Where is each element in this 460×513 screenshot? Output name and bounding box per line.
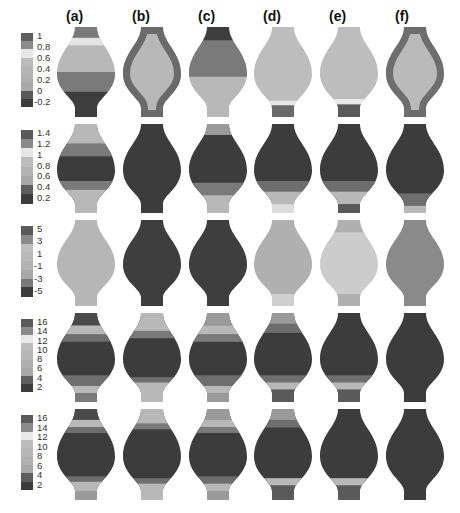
colorbar-tick-label: 0.2 — [37, 193, 50, 203]
contour-shape — [317, 409, 381, 500]
contour-shape — [317, 27, 381, 117]
colorbar-tick-label: 5 — [37, 224, 42, 234]
colorbar — [21, 226, 33, 296]
contour-shape — [317, 313, 381, 402]
contour-shape — [54, 409, 118, 500]
contour-shape — [186, 27, 250, 117]
colorbar-tick-label: 0.8 — [37, 42, 50, 52]
colorbar — [21, 33, 33, 107]
contour-shape — [383, 27, 447, 117]
colorbar-tick-label: 0 — [37, 86, 42, 96]
colorbar-tick-label: 2 — [37, 382, 42, 392]
contour-shape — [383, 313, 447, 402]
colorbar-segment — [21, 99, 33, 108]
colorbar-segment — [21, 194, 33, 204]
colorbar — [21, 319, 33, 392]
contour-shape — [383, 124, 447, 213]
colorbar-tick-label: 0.4 — [37, 182, 50, 192]
contour-shape — [120, 409, 184, 500]
contour-shape — [54, 220, 118, 306]
contour-shape — [54, 27, 118, 117]
colorbar-tick-label: 0.8 — [37, 161, 50, 171]
shape-grid — [0, 0, 460, 513]
contour-shape — [251, 313, 315, 402]
colorbar-tick-label: -1 — [34, 261, 42, 271]
contour-figure: (a)(b)(c)(d)(e)(f)10.80.60.40.20-0.21.41… — [0, 0, 460, 513]
contour-shape — [120, 313, 184, 402]
colorbar-tick-label: 2 — [37, 480, 42, 490]
colorbar-tick-label: 1 — [37, 249, 42, 259]
colorbar-tick-label: -5 — [34, 286, 42, 296]
contour-shape — [186, 124, 250, 213]
colorbar — [21, 130, 33, 203]
colorbar-tick-label: -0.2 — [34, 97, 50, 107]
contour-shape — [251, 27, 315, 117]
colorbar — [21, 415, 33, 490]
contour-shape — [186, 313, 250, 402]
contour-shape — [317, 220, 381, 306]
contour-shape — [186, 220, 250, 306]
contour-shape — [54, 313, 118, 402]
colorbar-tick-label: 0.4 — [37, 64, 50, 74]
colorbar-tick-label: 3 — [37, 236, 42, 246]
colorbar-tick-label: 1 — [37, 150, 42, 160]
colorbar-tick-label: 1.4 — [37, 128, 50, 138]
colorbar-tick-label: -3 — [34, 274, 42, 284]
colorbar-tick-label: 0.6 — [37, 171, 50, 181]
contour-shape — [317, 124, 381, 213]
colorbar-segment — [21, 384, 33, 393]
contour-shape — [383, 220, 447, 306]
contour-shape — [120, 27, 184, 117]
colorbar-tick-label: 0.2 — [37, 75, 50, 85]
contour-shape — [186, 409, 250, 500]
contour-shape — [251, 220, 315, 306]
colorbar-segment — [21, 287, 33, 296]
contour-shape — [251, 409, 315, 500]
colorbar-segment — [21, 482, 33, 491]
contour-shape — [120, 220, 184, 306]
contour-shape — [383, 409, 447, 500]
contour-shape — [251, 124, 315, 213]
contour-shape — [54, 124, 118, 213]
colorbar-tick-label: 1.2 — [37, 139, 50, 149]
colorbar-tick-label: 0.6 — [37, 53, 50, 63]
colorbar-tick-label: 1 — [37, 31, 42, 41]
contour-shape — [120, 124, 184, 213]
